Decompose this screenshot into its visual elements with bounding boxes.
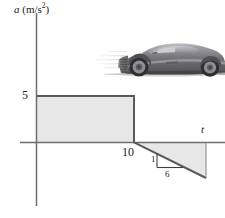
slope-run-label: 6 bbox=[165, 170, 170, 179]
acceleration-time-graph bbox=[0, 0, 225, 218]
slope-rise-label: 1 bbox=[151, 155, 156, 164]
sports-car-illustration bbox=[97, 42, 225, 77]
car-blur-overlay bbox=[98, 42, 124, 76]
car-front-wheel bbox=[129, 57, 148, 76]
x-tick-label-10: 10 bbox=[122, 146, 134, 158]
y-axis-label: a (m/s2) bbox=[14, 2, 49, 15]
positive-area-fill bbox=[37, 96, 135, 143]
y-axis-unit-close: ) bbox=[46, 3, 50, 15]
y-tick-label-5: 5 bbox=[22, 89, 28, 101]
y-axis-unit-open: (m/s bbox=[20, 3, 42, 15]
x-axis-label: t bbox=[201, 124, 204, 135]
